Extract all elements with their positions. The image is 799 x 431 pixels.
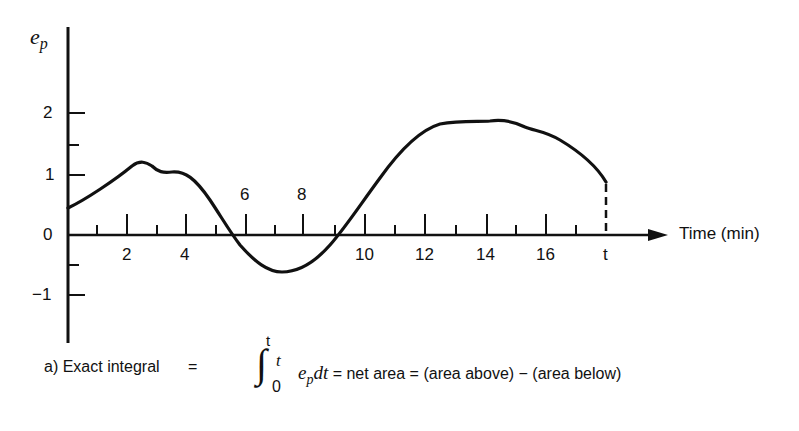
caption-prefix: a) Exact integral = [44, 358, 197, 376]
ep-curve [68, 120, 606, 272]
y-tick-label-2: 2 [43, 103, 52, 123]
x-tick-label-10: 10 [355, 245, 374, 265]
caption-suffix: = net area = (area above) − (area below) [328, 365, 621, 382]
x-axis-label: Time (min) [679, 224, 760, 244]
integral-sign: ∫ [256, 340, 267, 387]
x-axis-arrow-icon [648, 229, 668, 241]
caption-equals: = [188, 358, 197, 375]
x-tick-label-14: 14 [476, 245, 495, 265]
x-tick-label-8: 8 [297, 185, 306, 205]
y-tick-label-neg1: −1 [32, 285, 51, 305]
y-tick-label-1: 1 [45, 165, 54, 185]
x-tick-label-6: 6 [240, 185, 249, 205]
caption-prefix-text: a) Exact integral [44, 358, 160, 375]
x-tick-label-4: 4 [180, 245, 189, 265]
integrand: epdt = net area = (area above) − (area b… [298, 362, 621, 388]
x-tick-label-12: 12 [415, 245, 434, 265]
integrand-differential: dt [313, 362, 328, 383]
x-ticks [97, 214, 576, 235]
x-tick-label-t: t [603, 245, 608, 265]
y-tick-label-0: 0 [43, 225, 52, 245]
integral-lower-limit: 0 [272, 378, 281, 396]
y-axis-label-main: e [30, 24, 40, 49]
integral-upper-limit: t [276, 351, 281, 371]
y-axis-label: ep [30, 24, 48, 53]
x-tick-label-16: 16 [536, 245, 555, 265]
x-tick-label-2: 2 [122, 245, 131, 265]
y-axis-label-sub: p [40, 35, 48, 52]
